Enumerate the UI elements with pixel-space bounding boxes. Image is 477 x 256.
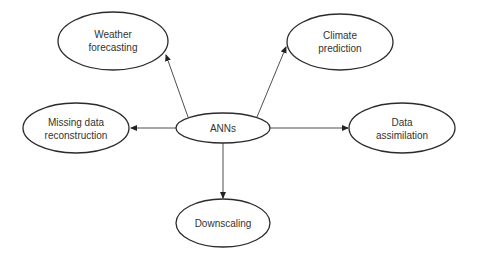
node-climate-ellipse: [287, 14, 393, 70]
node-weather-forecasting: Weather forecasting: [58, 12, 168, 70]
node-missing-data-reconstruction: Missing data reconstruction: [23, 103, 129, 153]
node-missing-ellipse: [23, 103, 129, 153]
node-climate-label-line1: Climate: [323, 30, 357, 41]
node-anns-center: ANNs: [176, 113, 270, 143]
diagram-svg: Weather forecasting Climate prediction M…: [0, 0, 477, 256]
node-weather-label-line2: forecasting: [89, 42, 138, 53]
edge-anns-to-climate: [257, 47, 286, 117]
node-missing-label-line1: Missing data: [48, 117, 105, 128]
node-assimilation-label-line1: Data: [391, 117, 413, 128]
node-weather-label-line1: Weather: [94, 29, 132, 40]
node-downscaling: Downscaling: [176, 199, 270, 247]
node-downscaling-label: Downscaling: [195, 218, 252, 229]
node-climate-label-line2: prediction: [318, 43, 361, 54]
node-assimilation-label-line2: assimilation: [376, 130, 428, 141]
diagram-canvas: Weather forecasting Climate prediction M…: [0, 0, 477, 256]
edge-anns-to-weather: [166, 55, 188, 117]
node-anns-label: ANNs: [210, 123, 236, 134]
node-missing-label-line2: reconstruction: [45, 130, 108, 141]
node-weather-ellipse: [58, 12, 168, 70]
node-data-assimilation: Data assimilation: [349, 103, 455, 153]
node-assimilation-ellipse: [349, 103, 455, 153]
node-climate-prediction: Climate prediction: [287, 14, 393, 70]
